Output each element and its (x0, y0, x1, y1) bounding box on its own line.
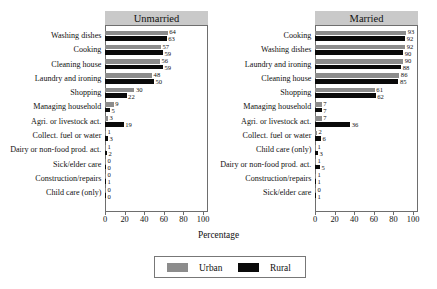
bar-row: Agri. or livestock act.736 (315, 115, 418, 129)
value-label-rural: 22 (128, 94, 135, 101)
plot-area: Washing dishes6463Cooking5759Cleaning ho… (105, 27, 208, 212)
bar-row: Shopping6162 (315, 86, 418, 100)
bar-rural (315, 122, 350, 127)
bar-urban (315, 159, 316, 164)
bar-urban (105, 116, 108, 121)
bar-urban (315, 131, 317, 136)
category-label: Sick/elder care (263, 186, 314, 200)
panel-unmarried: Unmarried Washing dishes6463Cooking5759C… (105, 11, 208, 212)
category-label: Shopping (280, 86, 314, 100)
x-tick-label: 100 (407, 215, 420, 224)
category-label: Cleaning house (51, 58, 104, 72)
bar-group: 9088 (315, 58, 418, 72)
bar-row: Managing household77 (315, 100, 418, 114)
panel-title: Unmarried (105, 11, 208, 26)
bar-group: 12 (105, 143, 208, 157)
category-label: Agri. or livestock act. (241, 115, 314, 129)
bar-urban (315, 88, 375, 93)
bar-row: Agri. or livestock act.319 (105, 115, 208, 129)
value-label-rural: 63 (168, 36, 175, 43)
bar-urban (315, 59, 403, 64)
chart-root: Unmarried Washing dishes6463Cooking5759C… (0, 0, 437, 289)
bar-urban (105, 88, 134, 93)
category-label: Collect. fuel or water (33, 129, 105, 143)
legend-item-urban: Urban (167, 262, 222, 273)
value-label-rural: 1 (317, 194, 320, 201)
legend-label-urban: Urban (199, 263, 222, 273)
bar-row: Laundry and ironing9088 (315, 58, 418, 72)
bar-rural (105, 165, 106, 170)
x-tick-label: 20 (120, 215, 128, 224)
bar-urban (315, 174, 316, 179)
bar-group: 6463 (105, 29, 208, 43)
bar-group: 11 (315, 172, 418, 186)
value-label-rural: 85 (400, 79, 407, 86)
bar-rural (105, 65, 163, 70)
legend-item-rural: Rural (238, 262, 291, 273)
x-tick-label: 40 (140, 215, 148, 224)
bar-row: Laundry and ironing4850 (105, 72, 208, 86)
legend-label-rural: Rural (270, 263, 291, 273)
bar-rural (315, 36, 405, 41)
bar-rural (315, 79, 398, 84)
category-label: Washing dishes (261, 43, 314, 57)
bar-rows: Washing dishes6463Cooking5759Cleaning ho… (105, 29, 208, 212)
bar-group: 01 (105, 172, 208, 186)
bar-rural (315, 108, 322, 113)
bar-row: Construction/repairs11 (315, 172, 418, 186)
value-label-rural: 92 (407, 36, 414, 43)
bar-row: Managing household95 (105, 100, 208, 114)
bar-group: 5659 (105, 58, 208, 72)
bar-rural (105, 93, 127, 98)
bar-rural (315, 193, 316, 198)
bar-row: Washing dishes9290 (315, 43, 418, 57)
bar-row: Cooking9392 (315, 29, 418, 43)
bar-row: Cleaning house8685 (315, 72, 418, 86)
bar-urban (105, 59, 160, 64)
category-label: Construction/repairs (35, 172, 104, 186)
category-label: Dairy or non-food prod. act. (10, 143, 104, 157)
bar-row: Washing dishes6463 (105, 29, 208, 43)
bar-urban (105, 174, 106, 179)
bar-group: 8685 (315, 72, 418, 86)
bar-group: 319 (105, 115, 208, 129)
x-axis-ticks: 020406080100 (105, 212, 208, 227)
value-label-rural: 1 (317, 179, 320, 186)
bar-row: Collect. fuel or water13 (105, 129, 208, 143)
bar-group: 95 (105, 100, 208, 114)
bar-rural (105, 122, 124, 127)
bar-rural (315, 93, 376, 98)
bar-urban (315, 73, 399, 78)
bar-urban (105, 131, 106, 136)
bar-urban (105, 45, 161, 50)
bar-group: 01 (315, 186, 418, 200)
category-label: Shopping (70, 86, 104, 100)
bar-urban (105, 73, 152, 78)
category-label: Child care (only) (256, 143, 314, 157)
value-label-urban: 2 (318, 129, 321, 136)
bar-row: Sick/elder care00 (105, 158, 208, 172)
bar-rows: Cooking9392Washing dishes9290Laundry and… (315, 29, 418, 212)
value-label-rural: 50 (156, 79, 163, 86)
category-label: Child care (only) (46, 186, 104, 200)
category-label: Cooking (284, 29, 315, 43)
x-axis-label: Percentage (0, 230, 437, 240)
legend-swatch-urban (167, 263, 188, 272)
category-label: Managing household (243, 100, 314, 114)
bar-rural (105, 79, 154, 84)
chart-legend: Urban Rural (154, 256, 306, 278)
bar-urban (105, 102, 114, 107)
bar-group: 00 (105, 186, 208, 200)
bar-group: 736 (315, 115, 418, 129)
category-label: Sick/elder care (53, 158, 104, 172)
bar-urban (315, 31, 406, 36)
bar-rural (315, 65, 401, 70)
bar-rural (105, 179, 106, 184)
bar-group: 5759 (105, 43, 208, 57)
bar-group: 9290 (315, 43, 418, 57)
panel-title: Married (315, 11, 418, 26)
x-tick-label: 80 (179, 215, 187, 224)
legend-swatch-rural (238, 263, 259, 272)
value-label-urban: 3 (109, 115, 112, 122)
category-label: Managing household (33, 100, 104, 114)
